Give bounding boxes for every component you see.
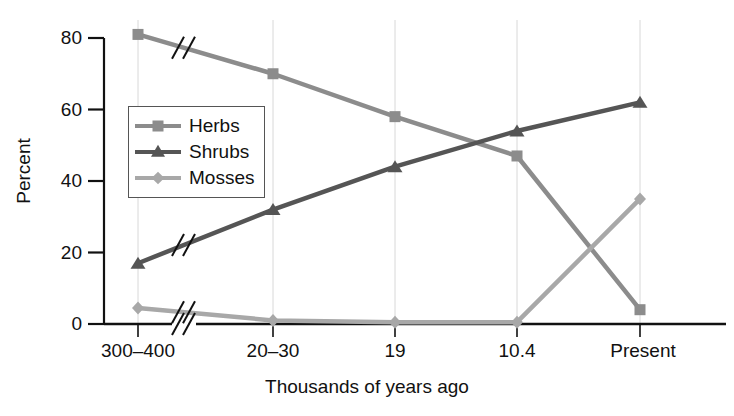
y-tick-label: 20 <box>20 242 82 264</box>
legend-item-mosses: Mosses <box>135 165 254 191</box>
diamond-marker-icon <box>152 172 165 185</box>
legend-swatch-mosses <box>135 169 181 187</box>
chart-figure: 80 60 40 20 0 300–400 20–30 19 10.4 Pres… <box>0 0 734 416</box>
legend-swatch-shrubs <box>135 143 181 161</box>
y-tick-label: 0 <box>20 313 82 335</box>
legend-item-herbs: Herbs <box>135 113 254 139</box>
x-tick-label: 10.4 <box>467 340 567 362</box>
legend-label: Herbs <box>189 116 240 136</box>
legend-item-shrubs: Shrubs <box>135 139 254 165</box>
legend-swatch-herbs <box>135 117 181 135</box>
x-tick-label: 19 <box>355 340 435 362</box>
plot-area: 80 60 40 20 0 300–400 20–30 19 10.4 Pres… <box>0 0 734 416</box>
y-axis-title: Percent <box>13 111 35 231</box>
square-marker-icon <box>153 121 164 132</box>
x-axis-title: Thousands of years ago <box>0 376 734 398</box>
triangle-marker-icon <box>151 145 165 157</box>
y-tick-label: 80 <box>20 27 82 49</box>
legend-label: Mosses <box>189 168 254 188</box>
legend-label: Shrubs <box>189 142 249 162</box>
x-tick-label: 20–30 <box>218 340 328 362</box>
x-tick-label: 300–400 <box>78 340 198 362</box>
legend: Herbs Shrubs Mosses <box>128 106 265 198</box>
x-tick-label: Present <box>578 340 708 362</box>
